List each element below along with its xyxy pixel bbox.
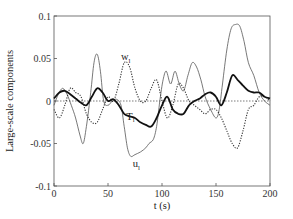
y-tick-label: 0.05: [34, 53, 52, 64]
y-axis-ticks: -0.1-0.0500.050.1: [30, 11, 57, 192]
line-chart: -0.1-0.0500.050.1 050100150200 wlTlul t …: [0, 0, 293, 219]
y-tick-label: -0.1: [35, 181, 51, 192]
x-axis-ticks: 050100150200: [52, 183, 278, 199]
y-tick-label: -0.05: [30, 138, 51, 149]
annotation-T-l: Tl: [126, 111, 134, 125]
y-tick-label: 0: [46, 96, 51, 107]
annotation-u-l: ul: [133, 158, 140, 172]
annotation-w-l: wl: [121, 51, 131, 64]
series-layer: [54, 24, 270, 156]
x-tick-label: 200: [263, 188, 278, 199]
x-tick-label: 50: [103, 188, 113, 199]
series-u-l-line: [54, 24, 270, 156]
x-tick-label: 100: [155, 188, 170, 199]
y-tick-label: 0.1: [39, 11, 52, 22]
x-axis-label: t (s): [154, 200, 171, 212]
x-tick-label: 0: [52, 188, 57, 199]
x-tick-label: 150: [209, 188, 224, 199]
y-axis-label: Large-scale components: [4, 50, 15, 152]
